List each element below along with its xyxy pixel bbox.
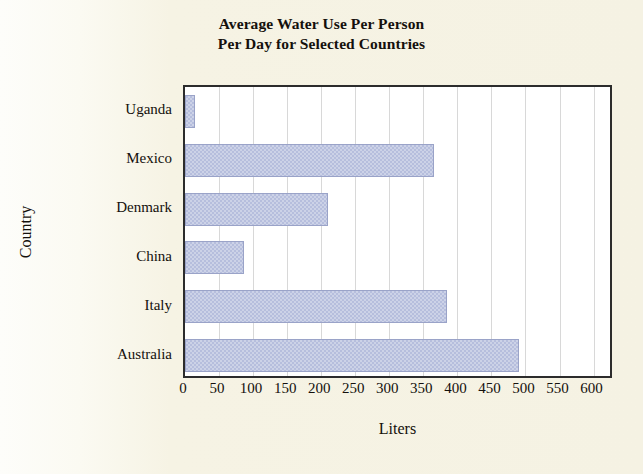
x-tick-label-550: 550	[546, 380, 569, 397]
x-tick-label-600: 600	[580, 380, 603, 397]
x-tick-label-400: 400	[444, 380, 467, 397]
chart-title-line-2: Per Day for Selected Countries	[0, 34, 643, 54]
chart-title: Average Water Use Per Person Per Day for…	[0, 14, 643, 54]
x-tick-label-100: 100	[240, 380, 263, 397]
x-tick-label-300: 300	[376, 380, 399, 397]
x-axis-tick-labels: 050100150200250300350400450500550600	[183, 378, 612, 404]
bar-mexico	[185, 144, 434, 177]
plot-area	[183, 85, 612, 378]
y-tick-label-denmark: Denmark	[116, 199, 172, 216]
bar-chart: Average Water Use Per Person Per Day for…	[0, 0, 643, 474]
x-tick-label-50: 50	[210, 380, 225, 397]
bar-uganda	[185, 95, 195, 128]
y-tick-label-uganda: Uganda	[125, 101, 172, 118]
x-tick-label-150: 150	[274, 380, 297, 397]
bar-denmark	[185, 193, 328, 226]
x-axis-title: Liters	[183, 420, 612, 438]
bar-series	[185, 87, 610, 376]
y-tick-label-mexico: Mexico	[126, 150, 172, 167]
y-tick-label-australia: Australia	[117, 345, 172, 362]
x-tick-label-450: 450	[478, 380, 501, 397]
x-tick-label-500: 500	[512, 380, 535, 397]
y-tick-label-italy: Italy	[145, 296, 173, 313]
bar-italy	[185, 290, 447, 323]
y-axis-tick-labels: UgandaMexicoDenmarkChinaItalyAustralia	[60, 85, 178, 378]
x-tick-label-350: 350	[410, 380, 433, 397]
x-tick-label-250: 250	[342, 380, 365, 397]
bar-australia	[185, 339, 519, 372]
x-tick-label-200: 200	[308, 380, 331, 397]
y-axis-title-text: Country	[17, 205, 35, 257]
y-axis-title: Country	[14, 85, 38, 378]
chart-title-line-1: Average Water Use Per Person	[219, 15, 425, 32]
bar-china	[185, 241, 244, 274]
x-tick-label-0: 0	[179, 380, 187, 397]
y-tick-label-china: China	[136, 247, 172, 264]
